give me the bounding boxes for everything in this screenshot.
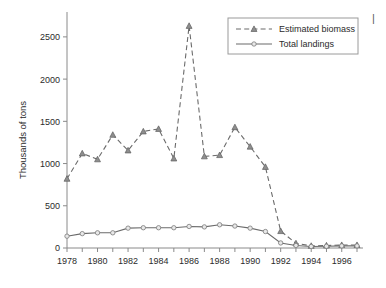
x-tick-label: 1980 [88, 256, 108, 266]
data-point-marker [217, 152, 223, 158]
chart-svg: 05001000150020002500 1978198019821984198… [0, 0, 386, 288]
x-tick-label: 1990 [240, 256, 260, 266]
data-point-marker [172, 226, 176, 230]
data-point-marker [278, 241, 282, 245]
x-tick-label: 1992 [271, 256, 291, 266]
y-tick-label: 1000 [40, 159, 60, 169]
data-point-marker [65, 234, 69, 238]
series-line-2 [67, 225, 357, 247]
x-tick-label: 1994 [301, 256, 321, 266]
data-point-marker [186, 23, 192, 29]
data-point-marker [309, 244, 313, 248]
y-axis-title: Thousands of tons [17, 101, 28, 179]
data-point-marker [340, 244, 344, 248]
x-tick-label: 1984 [149, 256, 169, 266]
data-point-marker [324, 244, 328, 248]
data-point-marker [141, 226, 145, 230]
data-point-marker [64, 176, 70, 182]
chart-legend: Estimated biomassTotal landings [228, 18, 358, 54]
data-point-marker [156, 126, 162, 132]
data-point-marker [80, 231, 84, 235]
data-point-marker [126, 226, 130, 230]
data-point-marker [156, 226, 160, 230]
legend-label: Total landings [279, 39, 335, 49]
data-point-marker [263, 229, 267, 233]
data-point-marker [217, 223, 221, 227]
y-tick-label: 0 [55, 243, 60, 253]
chart-canvas: 05001000150020002500 1978198019821984198… [0, 0, 386, 288]
x-tick-label: 1996 [332, 256, 352, 266]
data-point-marker [355, 244, 359, 248]
data-point-marker [232, 124, 238, 130]
data-point-marker [248, 226, 252, 230]
y-tick-label: 2500 [40, 32, 60, 42]
legend-label: Estimated biomass [279, 24, 356, 34]
data-series-group [64, 23, 360, 249]
x-tick-label: 1982 [118, 256, 138, 266]
data-point-marker [111, 231, 115, 235]
data-point-marker [278, 228, 284, 234]
data-point-marker [171, 155, 177, 161]
legend-marker [252, 42, 256, 46]
x-tick-label: 1988 [210, 256, 230, 266]
x-tick-label: 1986 [179, 256, 199, 266]
corner-artifact-mark: | [372, 12, 375, 24]
data-point-marker [233, 224, 237, 228]
data-point-marker [187, 224, 191, 228]
y-axis: 05001000150020002500 [40, 12, 67, 253]
chart-figure: 05001000150020002500 1978198019821984198… [0, 0, 386, 288]
data-point-marker [79, 150, 85, 156]
y-tick-label: 500 [45, 201, 60, 211]
data-point-marker [294, 243, 298, 247]
data-point-marker [202, 225, 206, 229]
x-tick-label: 1978 [57, 256, 77, 266]
y-tick-label: 2000 [40, 75, 60, 85]
data-point-marker [110, 132, 116, 138]
x-axis: 1978198019821984198619881990199219941996 [57, 248, 363, 266]
data-point-marker [95, 231, 99, 235]
y-tick-label: 1500 [40, 117, 60, 127]
